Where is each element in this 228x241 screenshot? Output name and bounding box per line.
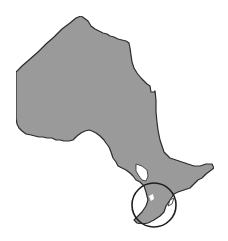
map-container: Ontario province outline Southern Ontari… bbox=[0, 0, 228, 241]
ontario-map bbox=[0, 0, 228, 241]
ontario-landmass bbox=[16, 16, 214, 224]
